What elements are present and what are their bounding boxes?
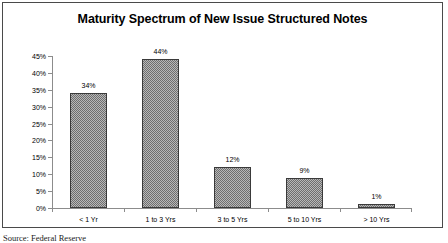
x-axis-tick — [52, 208, 53, 212]
y-axis-tick — [48, 140, 52, 141]
bar — [214, 167, 251, 208]
y-axis-label: 15% — [32, 154, 46, 161]
plot-area: 45% 40% 35% 30% 25% 20% 15% 10% 5% 0% — [52, 56, 412, 208]
x-axis-category-label: < 1 Yr — [79, 216, 98, 223]
y-axis-tick — [48, 174, 52, 175]
y-axis-line — [52, 56, 53, 208]
source-note: Source: Federal Reserve — [3, 233, 86, 243]
x-axis-tick — [196, 208, 197, 212]
y-axis-tick — [48, 157, 52, 158]
y-axis-label: 25% — [32, 120, 46, 127]
y-axis-label: 20% — [32, 137, 46, 144]
x-axis-tick — [124, 208, 125, 212]
bar — [286, 178, 323, 208]
x-axis-category-label: 5 to 10 Yrs — [288, 216, 322, 223]
x-axis-tick — [268, 208, 269, 212]
x-axis-category-label: 3 to 5 Yrs — [218, 216, 248, 223]
y-axis-label: 40% — [32, 69, 46, 76]
y-axis-tick — [48, 107, 52, 108]
chart-screenshot: Maturity Spectrum of New Issue Structure… — [0, 0, 448, 243]
bar — [70, 93, 107, 208]
y-axis-tick — [48, 191, 52, 192]
bar — [142, 59, 179, 208]
chart-frame: Maturity Spectrum of New Issue Structure… — [2, 2, 443, 228]
bar-value-label: 44% — [153, 48, 167, 55]
y-axis-tick — [48, 56, 52, 57]
y-axis-tick — [48, 124, 52, 125]
chart-title: Maturity Spectrum of New Issue Structure… — [3, 12, 442, 26]
bar-value-label: 12% — [225, 156, 239, 163]
y-axis-tick — [48, 73, 52, 74]
y-axis-label: 35% — [32, 86, 46, 93]
y-axis-tick — [48, 90, 52, 91]
y-axis-label: 10% — [32, 171, 46, 178]
x-axis-line — [52, 208, 412, 209]
y-axis-label: 30% — [32, 103, 46, 110]
bar-value-label: 34% — [81, 82, 95, 89]
x-axis-category-label: 1 to 3 Yrs — [146, 216, 176, 223]
x-axis-tick — [340, 208, 341, 212]
y-axis-label: 45% — [32, 53, 46, 60]
bar-value-label: 9% — [299, 167, 309, 174]
bar-value-label: 1% — [371, 193, 381, 200]
x-axis-category-label: > 10 Yrs — [363, 216, 389, 223]
y-axis-label: 0% — [36, 205, 46, 212]
y-axis-label: 5% — [36, 188, 46, 195]
x-axis-tick — [411, 208, 412, 212]
bar — [358, 204, 395, 208]
